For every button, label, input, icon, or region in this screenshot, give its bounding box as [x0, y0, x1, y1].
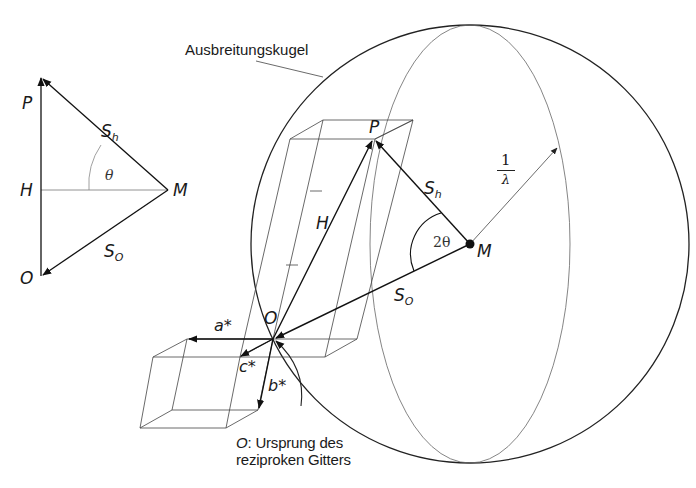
vector-s-o	[276, 244, 470, 338]
s-o-sub: O	[115, 251, 124, 264]
label-p: P	[369, 119, 379, 136]
label-o-small: O	[20, 270, 33, 287]
s-h-main: S	[101, 121, 112, 141]
label-h-small: H	[20, 182, 33, 199]
s-o-main: S	[104, 241, 115, 261]
s-h-main-label: S	[424, 178, 435, 198]
caption-line-1-text: : Ursprung des	[247, 434, 343, 451]
s-o-main-label: S	[394, 285, 405, 305]
label-p-small: P	[22, 95, 32, 112]
caption-origin-symbol: O	[236, 434, 247, 451]
label-m: M	[477, 243, 492, 260]
label-a-star: a*	[214, 318, 232, 334]
lattice-cell-unit	[140, 339, 273, 428]
label-s-h-small: Sh	[101, 123, 119, 143]
vector-h	[273, 141, 372, 339]
label-s-o-small: SO	[104, 243, 123, 263]
s-h-sub-label: h	[435, 188, 442, 201]
sphere-label: Ausbreitungskugel	[185, 42, 308, 57]
origin-leader	[276, 341, 302, 406]
s-o-sub-label: O	[405, 295, 414, 308]
vector-b-star	[259, 339, 273, 408]
caption-line-1: O: Ursprung des	[236, 434, 351, 451]
s-h-sub: h	[112, 131, 119, 144]
label-two-theta: 2θ	[433, 235, 450, 249]
label-theta: θ	[105, 168, 113, 182]
sphere-label-leader	[256, 61, 323, 77]
label-o: O	[264, 310, 277, 327]
radius-label: 1 λ	[497, 151, 515, 187]
caption-line-2: reziproken Gitters	[236, 451, 351, 468]
vector-s-h	[376, 141, 470, 244]
theta-arc	[89, 145, 101, 190]
label-b-star: b*	[268, 378, 286, 394]
radius-denominator: λ	[497, 171, 515, 187]
radius-numerator: 1	[497, 151, 515, 171]
label-m-small: M	[173, 182, 188, 199]
label-s-h: Sh	[424, 180, 442, 200]
vector-c-star	[241, 339, 273, 356]
label-h: H	[316, 215, 329, 232]
center-point-m	[466, 240, 475, 249]
label-s-o: SO	[394, 287, 413, 307]
label-c-star: c*	[239, 359, 256, 375]
origin-caption: O: Ursprung des reziproken Gitters	[236, 434, 351, 468]
